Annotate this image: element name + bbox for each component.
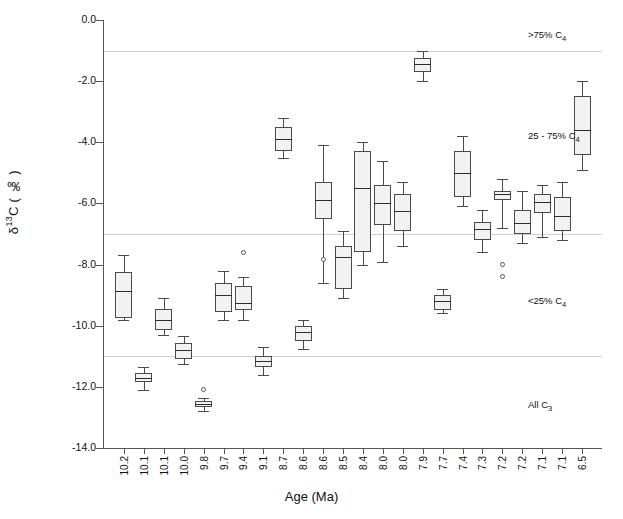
x-tick [482,448,483,454]
whisker-cap-lower [477,252,488,253]
x-tick-label: 10.2 [119,456,130,475]
y-tick-label: -12.0 [50,380,96,392]
x-tick-label: 6.5 [577,456,588,470]
whisker-cap-lower [278,158,289,159]
box-iqr [574,96,591,154]
outlier-point [241,250,246,255]
y-tick-label: -14.0 [50,441,96,453]
x-tick-label: 8.6 [298,456,309,470]
whisker-cap-upper [118,255,129,256]
y-tick [96,203,103,204]
y-tick-label: -2.0 [50,74,96,86]
y-tick-label: -6.0 [50,196,96,208]
median-line [474,229,491,230]
x-tick-label: 7.2 [517,456,528,470]
whisker-cap-lower [397,246,408,247]
whisker-cap-lower [218,320,229,321]
zone-label-subscript: 4 [562,300,566,309]
reference-gridline [104,234,602,235]
y-tick [96,142,103,143]
whisker-cap-upper [517,191,528,192]
whisker-cap-upper [477,210,488,211]
x-tick-label: 8.0 [378,456,389,470]
whisker-cap-upper [457,136,468,137]
x-tick [463,448,464,454]
x-tick [283,448,284,454]
x-tick [204,448,205,454]
median-line [295,332,312,333]
whisker-cap-upper [397,182,408,183]
median-line [434,301,451,302]
x-tick [383,448,384,454]
zone-label-text: 25 - 75% C [528,130,576,141]
x-tick [403,448,404,454]
x-axis-title: Age (Ma) [0,489,623,504]
whisker-cap-lower [298,349,309,350]
x-tick [522,448,523,454]
whisker-cap-upper [278,118,289,119]
box-iqr [335,246,352,289]
x-tick [243,448,244,454]
zone-annotation: All C3 [528,399,552,413]
whisker-cap-upper [437,289,448,290]
zone-label-text: <25% C [528,295,562,306]
whisker-cap-lower [238,320,249,321]
x-tick-label: 8.7 [278,456,289,470]
x-tick [582,448,583,454]
y-axis-title: δ13C ( ‰ ) [4,170,21,234]
zone-label-text: >75% C [528,29,562,40]
median-line [155,320,172,321]
zone-label-subscript: 4 [576,135,580,144]
zone-label-text: All C [528,399,548,410]
whisker-cap-upper [497,179,508,180]
whisker-cap-upper [537,185,548,186]
whisker-cap-upper [298,320,309,321]
x-tick-label: 8.5 [338,456,349,470]
whisker-cap-upper [557,182,568,183]
median-line [255,361,272,362]
y-tick [96,326,103,327]
y-tick [96,387,103,388]
median-line [514,223,531,224]
x-tick-label: 7.4 [458,456,469,470]
zone-annotation: >75% C4 [528,29,566,43]
median-line [374,203,391,204]
zone-label-subscript: 3 [548,404,552,413]
median-line [275,139,292,140]
box-iqr [374,185,391,225]
median-line [195,404,212,405]
y-tick-label: -8.0 [50,258,96,270]
whisker-cap-upper [338,231,349,232]
whisker-cap-lower [437,313,448,314]
chart-root: δ13C ( ‰ ) 0.0-2.0-4.0-6.0-8.0-10.0-12.0… [0,0,623,519]
reference-gridline [104,51,602,52]
median-line [135,378,152,379]
whisker-cap-lower [417,81,428,82]
x-tick-label: 9.1 [258,456,269,470]
y-tick-label: 0.0 [50,13,96,25]
x-tick-label: 10.1 [139,456,150,475]
median-line [494,194,511,195]
box-iqr [394,194,411,231]
x-tick-label: 9.8 [199,456,210,470]
whisker-cap-lower [118,320,129,321]
median-line [215,295,232,296]
x-tick-label: 8.0 [398,456,409,470]
box-iqr [474,222,491,240]
whisker-cap-upper [218,271,229,272]
x-tick [263,448,264,454]
whisker-cap-lower [158,335,169,336]
box-iqr [215,283,232,312]
x-tick-label: 7.3 [477,456,488,470]
x-axis-line [104,448,602,449]
y-tick [96,81,103,82]
median-line [175,350,192,351]
outlier-point [321,257,326,262]
x-tick [443,448,444,454]
median-line [235,303,252,304]
x-tick-label: 9.7 [219,456,230,470]
whisker-cap-lower [198,411,209,412]
x-tick-label: 7.1 [537,456,548,470]
outlier-point [500,262,505,267]
x-tick-label: 7.7 [438,456,449,470]
